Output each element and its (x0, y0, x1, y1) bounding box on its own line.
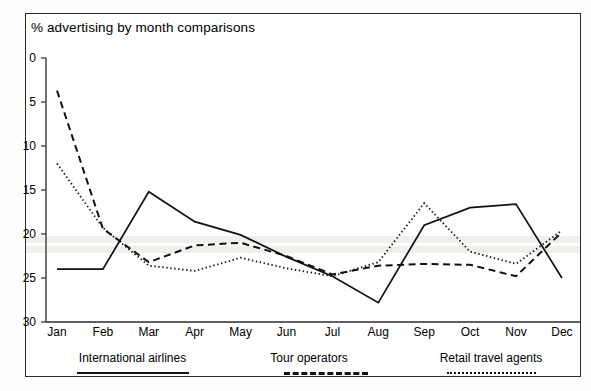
y-axis-tick-label: 20 (10, 228, 36, 240)
x-axis-tick-label: Jun (264, 326, 310, 338)
axes (41, 58, 580, 322)
x-axis-tick-label: Mar (126, 326, 172, 338)
data-series-group (57, 91, 562, 303)
x-axis-tick-label: Feb (80, 326, 126, 338)
y-axis-tick-label: 5 (10, 96, 36, 108)
series-line-dashed (57, 91, 562, 277)
y-axis-tick-label: 15 (10, 184, 36, 196)
x-axis-tick-label: Jan (34, 326, 80, 338)
y-axis-tick-label: 30 (10, 316, 36, 328)
x-axis-tick-label: Nov (493, 326, 539, 338)
x-axis-tick-label: Apr (172, 326, 218, 338)
chart-figure: % advertising by month comparisons 30252… (0, 0, 591, 391)
x-axis-tick-label: Aug (355, 326, 401, 338)
legend-key-dashed (284, 372, 368, 378)
y-axis-tick-label: 25 (10, 272, 36, 284)
x-axis-tick-label: Oct (447, 326, 493, 338)
y-axis-tick-label: 10 (10, 140, 36, 152)
y-axis-ticks (41, 58, 46, 322)
x-axis-tick-label: May (218, 326, 264, 338)
legend-key-dotted (447, 372, 536, 377)
series-line-solid (57, 192, 562, 303)
y-axis-tick-label: 0 (10, 52, 36, 64)
x-axis-tick-label: Sep (401, 326, 447, 338)
x-axis-tick-label: Jul (309, 326, 355, 338)
legend-label-dotted: Retail travel agents (420, 352, 562, 365)
legend-label-dashed: Tour operators (247, 352, 371, 365)
x-axis-tick-label: Dec (539, 326, 585, 338)
legend-key-solid (77, 372, 189, 377)
legend-label-solid: International airlines (55, 352, 210, 365)
